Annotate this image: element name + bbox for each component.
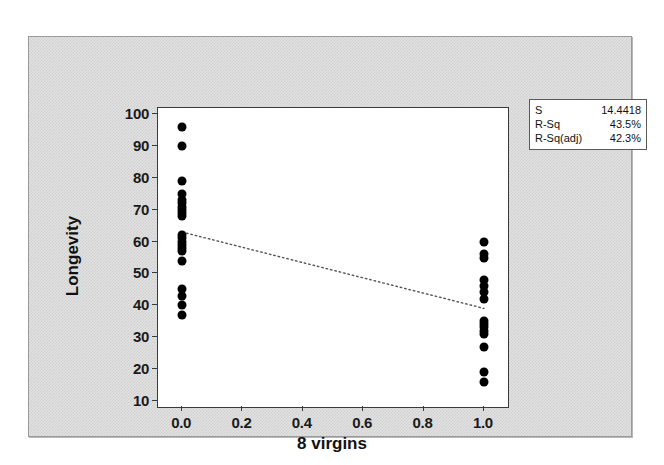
statistic-key: S (535, 103, 542, 117)
y-tick-mark (152, 368, 157, 369)
x-tick-label: 0.6 (332, 414, 392, 431)
scatter-point (178, 291, 187, 300)
scatter-point (178, 310, 187, 319)
y-tick-label: 90 (103, 137, 149, 154)
x-tick-mark (423, 406, 424, 411)
y-tick-label: 40 (103, 296, 149, 313)
statistic-value: 43.5% (610, 117, 641, 131)
x-tick-mark (302, 406, 303, 411)
scatter-point (479, 342, 488, 351)
y-tick-mark (152, 272, 157, 273)
x-tick-mark (181, 406, 182, 411)
statistic-key: R-Sq(adj) (535, 131, 582, 145)
y-tick-label: 80 (103, 168, 149, 185)
x-tick-mark (362, 406, 363, 411)
y-tick-mark (152, 177, 157, 178)
y-tick-label: 70 (103, 200, 149, 217)
y-tick-mark (152, 400, 157, 401)
scatter-point (178, 123, 187, 132)
y-tick-mark (152, 113, 157, 114)
y-tick-mark (152, 336, 157, 337)
statistic-row: R-Sq43.5% (535, 117, 641, 131)
y-tick-mark (152, 209, 157, 210)
x-tick-label: 1.0 (453, 414, 513, 431)
y-tick-label: 10 (103, 391, 149, 408)
scatter-point (479, 237, 488, 246)
statistic-row: R-Sq(adj)42.3% (535, 131, 641, 145)
chart-panel: Longevity 8 virgins S14.4418R-Sq43.5%R-S… (28, 36, 632, 437)
scatter-point (178, 301, 187, 310)
y-tick-mark (152, 304, 157, 305)
scatter-point (479, 294, 488, 303)
scatter-point (479, 377, 488, 386)
x-tick-label: 0.8 (393, 414, 453, 431)
statistic-value: 42.3% (610, 131, 641, 145)
scatter-point (479, 253, 488, 262)
x-tick-label: 0.2 (211, 414, 271, 431)
scatter-point (178, 177, 187, 186)
x-tick-mark (241, 406, 242, 411)
x-tick-label: 0.4 (272, 414, 332, 431)
x-tick-mark (483, 406, 484, 411)
y-tick-label: 50 (103, 264, 149, 281)
scatter-point (178, 212, 187, 221)
statistic-key: R-Sq (535, 117, 560, 131)
screenshot-root: Longevity 8 virgins S14.4418R-Sq43.5%R-S… (0, 0, 664, 465)
y-tick-label: 30 (103, 328, 149, 345)
scatter-point (479, 368, 488, 377)
y-tick-mark (152, 145, 157, 146)
statistic-row: S14.4418 (535, 103, 641, 117)
y-axis-label: Longevity (63, 216, 83, 296)
y-tick-mark (152, 241, 157, 242)
x-tick-label: 0.0 (151, 414, 211, 431)
plot-inner (158, 108, 508, 407)
plot-area (157, 107, 509, 408)
y-tick-label: 100 (103, 105, 149, 122)
scatter-point (178, 247, 187, 256)
scatter-point (178, 256, 187, 265)
regression-line (158, 108, 508, 407)
x-axis-label: 8 virgins (297, 434, 367, 454)
y-tick-label: 20 (103, 359, 149, 376)
scatter-point (178, 142, 187, 151)
statistic-value: 14.4418 (601, 103, 641, 117)
y-tick-label: 60 (103, 232, 149, 249)
scatter-point (479, 329, 488, 338)
statistics-box: S14.4418R-Sq43.5%R-Sq(adj)42.3% (529, 99, 647, 150)
